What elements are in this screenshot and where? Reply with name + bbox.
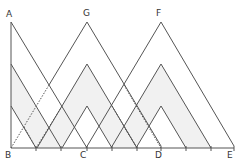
label-g: G xyxy=(83,9,90,18)
label-b: B xyxy=(5,151,11,160)
label-f: F xyxy=(156,9,161,18)
triangle-diagram xyxy=(0,0,236,160)
label-e: E xyxy=(227,151,233,160)
label-c: C xyxy=(80,151,86,160)
label-a: A xyxy=(6,10,12,19)
label-d: D xyxy=(155,151,162,160)
